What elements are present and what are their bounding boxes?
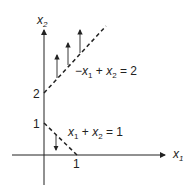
constraint-label-1: −x1 + x2 = 2	[75, 64, 137, 80]
x-axis-label: x1	[172, 147, 183, 163]
constraint-label-2: x1 + x2 = 1	[67, 125, 123, 141]
tick-x-1: 1	[73, 157, 80, 171]
lp-feasibility-diagram: x2 x1 2 1 1 −x1 + x2 = 2 x1 + x2 = 1	[0, 0, 196, 195]
y-axis-label: x2	[36, 13, 48, 29]
tick-y-2: 2	[33, 87, 40, 101]
constraint-line-1	[44, 26, 106, 93]
tick-y-1: 1	[33, 117, 40, 131]
